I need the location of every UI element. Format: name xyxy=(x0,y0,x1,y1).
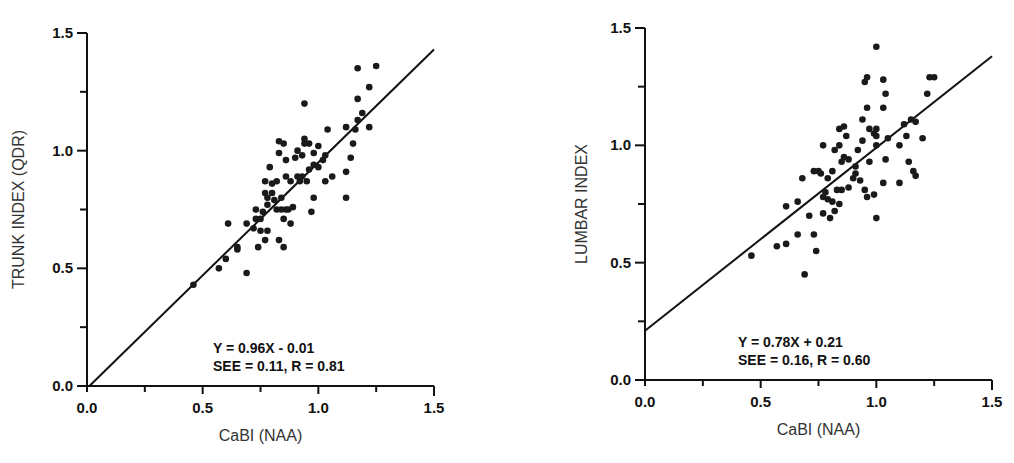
data-point xyxy=(299,173,306,180)
trunk-index-plot: 0.00.51.01.50.00.51.01.5CaBI (NAA)TRUNK … xyxy=(0,0,500,463)
data-point xyxy=(299,152,306,159)
data-point xyxy=(901,121,908,128)
data-point xyxy=(276,150,283,157)
data-point xyxy=(820,210,827,217)
x-tick-label: 1.5 xyxy=(424,399,445,416)
y-axis-label: LUMBAR INDEX xyxy=(573,144,590,264)
data-point xyxy=(310,150,317,157)
data-point xyxy=(292,154,299,161)
data-point xyxy=(352,126,359,133)
data-point xyxy=(347,154,354,161)
data-point xyxy=(294,147,301,154)
data-point xyxy=(783,241,790,248)
y-tick-label: 0.5 xyxy=(610,254,631,271)
y-tick-label: 0.5 xyxy=(52,259,73,276)
data-point xyxy=(873,133,880,140)
data-point xyxy=(829,168,836,175)
regression-annotation: SEE = 0.11, R = 0.81 xyxy=(213,358,345,374)
regression-annotation: Y = 0.78X + 0.21 xyxy=(738,334,843,350)
data-point xyxy=(836,201,843,208)
x-tick-label: 0.5 xyxy=(192,399,213,416)
data-point xyxy=(829,198,836,205)
data-point xyxy=(350,140,357,147)
data-point xyxy=(924,90,931,97)
data-point xyxy=(866,158,873,165)
x-axis-label: CaBI (NAA) xyxy=(219,427,303,444)
data-point xyxy=(343,194,350,201)
data-point xyxy=(373,63,380,70)
data-point xyxy=(354,96,361,103)
data-point xyxy=(243,220,250,227)
x-axis-label: CaBI (NAA) xyxy=(777,421,861,438)
x-tick-label: 0.0 xyxy=(635,393,656,410)
data-point xyxy=(882,90,889,97)
data-point xyxy=(864,104,871,111)
data-point xyxy=(873,215,880,222)
data-point xyxy=(843,133,850,140)
data-point xyxy=(264,194,271,201)
x-tick-label: 1.5 xyxy=(982,393,1003,410)
data-point xyxy=(273,178,280,185)
y-tick-label: 1.0 xyxy=(610,136,631,153)
data-point xyxy=(824,175,831,182)
data-point xyxy=(885,135,892,142)
data-point xyxy=(882,156,889,163)
data-point xyxy=(278,194,285,201)
data-point xyxy=(831,208,838,215)
data-point xyxy=(852,163,859,170)
data-point xyxy=(801,271,808,278)
trunk-index-chart: 0.00.51.01.50.00.51.01.5CaBI (NAA)TRUNK … xyxy=(0,0,500,463)
data-point xyxy=(836,142,843,149)
data-point xyxy=(250,225,257,232)
data-point xyxy=(322,152,329,159)
data-point xyxy=(262,178,269,185)
data-point xyxy=(861,187,868,194)
data-point xyxy=(253,206,260,213)
data-point xyxy=(366,84,373,91)
data-point xyxy=(276,237,283,244)
data-point xyxy=(264,201,271,208)
data-point xyxy=(329,173,336,180)
data-point xyxy=(811,231,818,238)
data-point xyxy=(820,142,827,149)
data-point xyxy=(827,215,834,222)
data-point xyxy=(873,126,880,133)
data-point xyxy=(280,216,287,223)
data-point xyxy=(857,177,864,184)
lumbar-index-chart: 0.00.51.01.50.00.51.01.5CaBI (NAA)LUMBAR… xyxy=(507,0,1014,463)
data-point xyxy=(919,135,926,142)
data-point xyxy=(852,170,859,177)
data-point xyxy=(322,178,329,185)
data-point xyxy=(806,212,813,219)
data-point xyxy=(310,194,317,201)
data-point xyxy=(880,76,887,83)
data-point xyxy=(864,194,871,201)
data-point xyxy=(880,104,887,111)
data-point xyxy=(859,137,866,144)
x-tick-label: 1.0 xyxy=(866,393,887,410)
data-point xyxy=(366,124,373,131)
data-point xyxy=(308,209,315,216)
data-point xyxy=(306,140,313,147)
data-point xyxy=(306,166,313,173)
regression-annotation: SEE = 0.16, R = 0.60 xyxy=(738,352,871,368)
data-point xyxy=(301,100,308,107)
y-tick-label: 1.5 xyxy=(52,24,73,41)
data-point xyxy=(748,252,755,259)
y-tick-label: 1.5 xyxy=(610,19,631,36)
data-point xyxy=(873,142,880,149)
data-point xyxy=(264,227,271,234)
data-point xyxy=(255,244,262,251)
data-point xyxy=(301,136,308,143)
data-point xyxy=(855,147,862,154)
data-point xyxy=(343,169,350,176)
data-point xyxy=(283,157,290,164)
data-point xyxy=(243,270,250,277)
data-point xyxy=(799,175,806,182)
y-tick-label: 0.0 xyxy=(52,377,73,394)
data-point xyxy=(287,220,294,227)
data-point xyxy=(271,197,278,204)
data-point xyxy=(343,124,350,131)
data-point xyxy=(813,248,820,255)
data-point xyxy=(354,65,361,72)
